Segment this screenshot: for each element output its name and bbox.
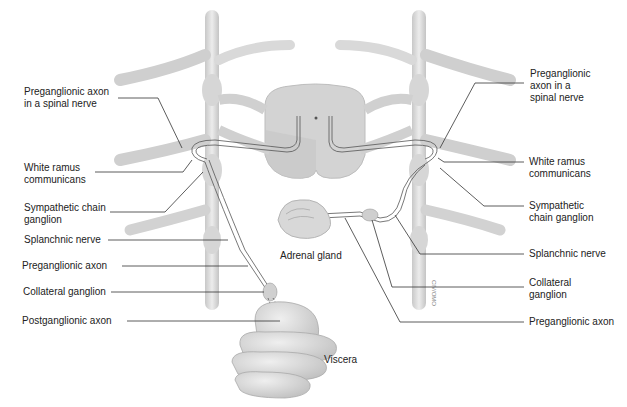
label-white-ramus-communicans-right: White ramus communicans: [529, 156, 591, 180]
label-collateral-ganglion-left: Collateral ganglion: [23, 286, 106, 298]
spinal-cord: [219, 84, 412, 178]
label-adrenal-gland: Adrenal gland: [280, 250, 342, 262]
label-preganglionic-axon-spinal-nerve-right: Preganglionic axon in a spinal nerve: [530, 68, 591, 104]
label-splanchnic-nerve-right: Splanchnic nerve: [529, 248, 606, 260]
adrenal-gland: [278, 200, 331, 239]
label-splanchnic-nerve-left: Splanchnic nerve: [24, 234, 101, 246]
right-collateral-ganglion: [362, 209, 378, 221]
viscera: [232, 302, 336, 398]
left-collateral-ganglion: [263, 283, 277, 301]
sympathetic-pathway-diagram: CIV/OMO: [0, 0, 627, 407]
left-sympathetic-trunk: [120, 10, 290, 310]
label-preganglionic-axon-left: Preganglionic axon: [22, 260, 107, 272]
right-sympathetic-trunk: CIV/OMO: [340, 10, 510, 310]
svg-text:CIV/OMO: CIV/OMO: [431, 280, 437, 306]
label-sympathetic-chain-ganglion-left: Sympathetic chain ganglion: [24, 202, 106, 226]
label-collateral-ganglion-right: Collateral ganglion: [529, 277, 571, 301]
label-viscera: Viscera: [324, 354, 357, 366]
label-preganglionic-axon-right: Preganglionic axon: [529, 316, 614, 328]
label-white-ramus-communicans-left: White ramus communicans: [24, 162, 86, 186]
label-sympathetic-chain-ganglion-right: Sympathetic chain ganglion: [529, 200, 594, 224]
label-preganglionic-axon-spinal-nerve-left: Preganglionic axon in a spinal nerve: [24, 86, 109, 110]
label-postganglionic-axon-left: Postganglionic axon: [22, 315, 112, 327]
